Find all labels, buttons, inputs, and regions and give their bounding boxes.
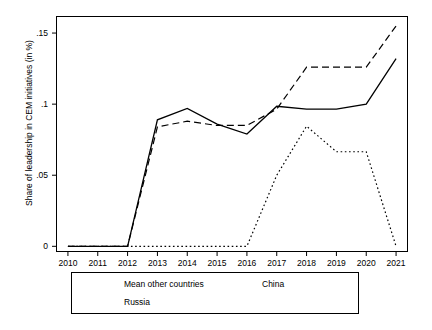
data-series-group <box>68 26 396 246</box>
y-tick-label: .15 <box>18 29 48 38</box>
series-line-russia <box>68 126 396 246</box>
legend-label-china: China <box>262 280 284 289</box>
axis-ticks <box>52 33 396 256</box>
legend-label-russia: Russia <box>124 298 150 307</box>
legend-label-mean-other-countries: Mean other countries <box>124 280 204 289</box>
series-line-mean-other-countries <box>68 59 396 247</box>
series-line-china <box>68 26 396 246</box>
y-tick-label: 0 <box>18 242 48 251</box>
legend: Mean other countries China Russia <box>71 272 359 314</box>
y-tick-label: .1 <box>18 100 48 109</box>
chart-container: Share of leadership in CEM initiatives (… <box>0 0 432 330</box>
y-tick-label: .05 <box>18 171 48 180</box>
x-tick-label: 2021 <box>379 259 413 268</box>
